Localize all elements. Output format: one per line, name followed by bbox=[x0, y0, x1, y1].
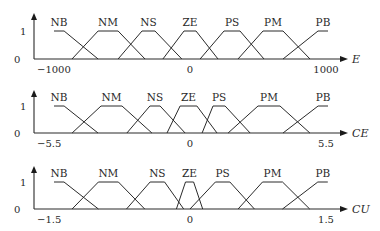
y-tick-label-0: 0 bbox=[14, 54, 20, 65]
x-tick-label: 5.5 bbox=[318, 138, 334, 149]
series-label-nm: NM bbox=[102, 91, 122, 103]
membership-function-pm bbox=[238, 182, 310, 209]
x-axis-arrow-icon bbox=[340, 206, 348, 212]
series-label-ns: NS bbox=[149, 167, 165, 179]
x-axis-label: CU bbox=[352, 203, 370, 216]
chart-panel-ce: CE01−5.505.5NBNMNSZEPSPMPB bbox=[14, 90, 368, 149]
membership-functions-figure: E01−100001000NBNMNSZEPSPMPBCE01−5.505.5N… bbox=[0, 0, 380, 231]
series-label-ze: ZE bbox=[181, 91, 196, 103]
series-label-nb: NB bbox=[51, 167, 68, 179]
membership-function-ze bbox=[163, 31, 218, 59]
x-axis-arrow-icon bbox=[340, 56, 348, 62]
x-tick-label: 0 bbox=[187, 138, 193, 149]
series-label-pb: PB bbox=[315, 167, 330, 179]
series-label-ns: NS bbox=[140, 16, 156, 28]
y-tick-label-0: 0 bbox=[14, 204, 20, 215]
x-axis-label: CE bbox=[352, 127, 368, 140]
series-label-nm: NM bbox=[98, 167, 118, 179]
membership-function-pm bbox=[228, 106, 310, 133]
x-axis-label: E bbox=[351, 53, 360, 66]
y-axis-arrow-icon bbox=[31, 13, 37, 20]
x-tick-label: 1.5 bbox=[318, 214, 334, 225]
x-tick-label: 1000 bbox=[313, 64, 338, 75]
chart-panel-e: E01−100001000NBNMNSZEPSPMPB bbox=[14, 13, 360, 75]
series-label-ns: NS bbox=[147, 91, 163, 103]
x-tick-label: 0 bbox=[187, 64, 193, 75]
series-label-ps: PS bbox=[225, 16, 239, 28]
y-axis-arrow-icon bbox=[31, 166, 37, 173]
series-label-nb: NB bbox=[51, 16, 68, 28]
membership-function-nm bbox=[72, 31, 145, 59]
membership-function-ns bbox=[127, 182, 184, 209]
membership-function-nm bbox=[72, 182, 145, 209]
series-label-pb: PB bbox=[316, 16, 331, 28]
series-label-pm: PM bbox=[264, 167, 282, 179]
x-tick-label: 0 bbox=[187, 214, 193, 225]
y-tick-label-1: 1 bbox=[20, 177, 26, 188]
membership-function-ps bbox=[200, 31, 264, 59]
x-tick-label: −1.5 bbox=[37, 214, 61, 225]
membership-function-ns bbox=[127, 106, 185, 133]
series-label-nm: NM bbox=[98, 16, 118, 28]
x-tick-label: −1000 bbox=[37, 64, 71, 75]
membership-function-ze bbox=[167, 106, 217, 133]
series-label-ps: PS bbox=[212, 91, 226, 103]
membership-function-pm bbox=[238, 31, 310, 59]
series-label-nb: NB bbox=[51, 91, 68, 103]
membership-function-nm bbox=[72, 106, 152, 133]
series-label-ze: ZE bbox=[183, 16, 198, 28]
series-label-ze: ZE bbox=[182, 167, 197, 179]
y-tick-label-1: 1 bbox=[20, 26, 26, 37]
series-label-pm: PM bbox=[260, 91, 278, 103]
membership-function-ns bbox=[118, 31, 182, 59]
series-label-pm: PM bbox=[264, 16, 282, 28]
series-label-pb: PB bbox=[316, 91, 331, 103]
x-axis-arrow-icon bbox=[340, 130, 348, 136]
chart-panel-cu: CU01−1.501.5NBNMNSZEPSPMPB bbox=[14, 166, 370, 225]
y-tick-label-0: 0 bbox=[14, 128, 20, 139]
x-tick-label: −5.5 bbox=[37, 138, 61, 149]
series-label-ps: PS bbox=[216, 167, 230, 179]
y-axis-arrow-icon bbox=[31, 90, 37, 97]
y-tick-label-1: 1 bbox=[20, 101, 26, 112]
membership-function-ps bbox=[190, 182, 254, 209]
